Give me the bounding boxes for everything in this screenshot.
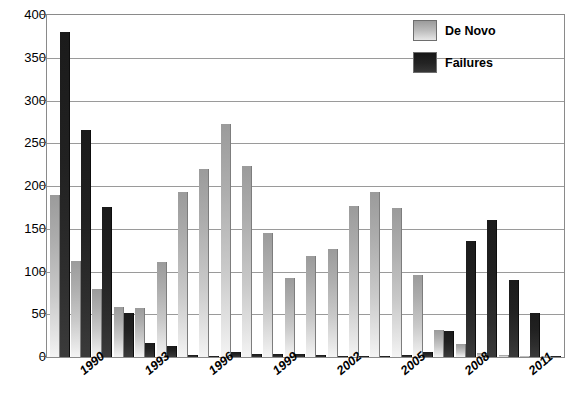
bar-de-novo-2005 [392,208,402,357]
year-group [113,15,134,357]
year-group [70,15,91,357]
bar-de-novo-2000 [285,278,295,358]
bar-failures-1995 [188,355,198,357]
y-axis: 050100150200250300350400 [0,14,46,358]
bar-failures-2007 [444,331,454,357]
year-group [92,15,113,357]
bar-failures-2001 [316,355,326,357]
legend-item-failures: Failures [413,52,525,73]
bar-chart: 050100150200250300350400 199019931996199… [0,0,570,404]
bar-failures-2009 [487,220,497,357]
year-group [327,15,348,357]
bar-de-novo-2004 [370,192,380,357]
bar-de-novo-1992 [114,307,124,357]
y-tick-mark [39,356,46,357]
bar-de-novo-2011 [520,356,530,357]
year-group [135,15,156,357]
year-group [156,15,177,357]
bar-de-novo-1993 [135,308,145,357]
bar-failures-1990 [81,130,91,357]
y-tick-mark [39,185,46,186]
bar-failures-2010 [509,280,519,357]
year-group [263,15,284,357]
year-group [199,15,220,357]
bar-de-novo-2001 [306,256,316,357]
bar-de-novo-2007 [434,330,444,357]
y-tick-mark [39,313,46,314]
bar-de-novo-1998 [242,166,252,357]
bar-failures-2004 [380,356,390,357]
year-group [370,15,391,357]
bar-de-novo-1997 [221,124,231,357]
year-group [220,15,241,357]
bar-de-novo-1990 [71,261,81,357]
y-tick-mark [39,14,46,15]
year-group [391,15,412,357]
bar-de-novo-2003 [349,206,359,357]
year-group [541,15,562,357]
legend: De Novo Failures [413,20,525,73]
year-group [284,15,305,357]
bar-de-novo-2006 [413,275,423,357]
y-tick-mark [39,142,46,143]
bar-failures-1989 [60,32,70,357]
legend-item-de-novo: De Novo [413,20,525,41]
bar-failures-1991 [102,207,112,357]
legend-swatch-de-novo-icon [413,20,437,41]
year-group [306,15,327,357]
year-group [177,15,198,357]
y-tick-mark [39,100,46,101]
legend-label-de-novo: De Novo [445,24,496,38]
legend-swatch-failures-icon [413,52,437,73]
bar-failures-2011 [530,313,540,357]
bar-de-novo-1999 [263,233,273,357]
x-axis: 19901993199619992002200520082011 [47,359,564,404]
bar-failures-1993 [145,343,155,357]
bar-failures-2008 [466,241,476,357]
bar-de-novo-2010 [499,355,509,357]
legend-label-failures: Failures [445,56,493,70]
year-group [348,15,369,357]
y-tick-mark [39,57,46,58]
bar-failures-1998 [252,354,262,357]
y-tick-mark [39,271,46,272]
bar-failures-1992 [124,313,134,357]
bar-de-novo-1991 [92,289,102,357]
bar-de-novo-1995 [178,192,188,357]
bar-de-novo-1994 [157,262,167,357]
bar-de-novo-2008 [456,344,466,357]
bar-de-novo-1989 [50,195,60,357]
bar-de-novo-1996 [199,169,209,357]
year-group [49,15,70,357]
year-group [241,15,262,357]
bar-de-novo-2002 [328,249,338,357]
y-tick-mark [39,228,46,229]
